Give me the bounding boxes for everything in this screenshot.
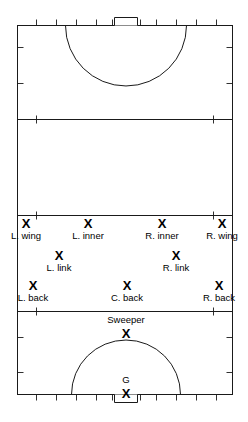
- field-markings: [0, 0, 248, 422]
- field-hockey-diagram: X L. wing X L. inner X R. inner X R. win…: [0, 0, 248, 422]
- field-outline: [18, 26, 233, 395]
- goal-bottom: [115, 395, 138, 403]
- goal-top: [115, 18, 138, 26]
